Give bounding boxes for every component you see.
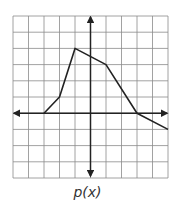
graph-caption: p(x) [0, 184, 175, 200]
axes [14, 17, 167, 176]
function-graph [0, 0, 175, 209]
